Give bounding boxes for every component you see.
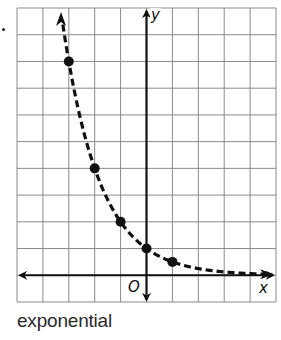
data-point	[64, 56, 74, 66]
dashed-curve	[56, 12, 274, 279]
exponential-graph	[0, 0, 281, 340]
graph-caption: exponential	[17, 310, 112, 332]
x-axis-label: x	[258, 281, 269, 296]
data-point	[116, 217, 126, 227]
data-point	[142, 244, 152, 254]
y-axis-label: y	[150, 8, 161, 23]
axes	[20, 11, 273, 300]
origin-label: O	[128, 280, 140, 295]
data-point	[90, 163, 100, 173]
data-point	[167, 257, 177, 267]
